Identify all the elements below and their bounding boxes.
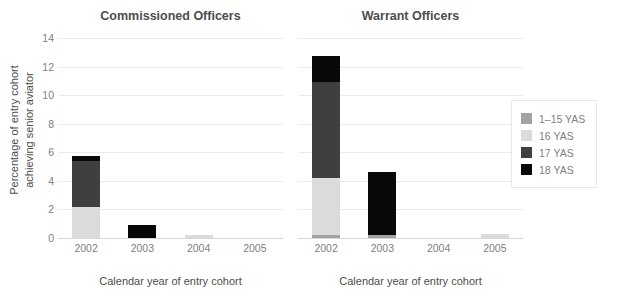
y-axis-label-line1: Percentage of entry cohort <box>8 65 20 195</box>
x-axis-label: Calendar year of entry cohort <box>298 275 523 287</box>
bar-segment <box>368 235 396 238</box>
panel-warrant-officers: Warrant Officers 2002200320042005 Calend… <box>298 0 523 307</box>
x-axis-tick-label: 2004 <box>169 242 229 254</box>
bar-segment <box>481 234 509 238</box>
y-axis-tick-label: 14 <box>28 32 54 44</box>
panel-title: Commissioned Officers <box>58 9 283 23</box>
legend-swatch-16-yas <box>521 130 532 141</box>
x-axis-tick-label: 2003 <box>352 242 412 254</box>
legend-item[interactable]: 1–15 YAS <box>521 110 585 127</box>
bar-warrant-officers-2002 <box>312 56 340 238</box>
legend-item-label: 17 YAS <box>539 147 574 159</box>
plot-area <box>58 38 283 238</box>
x-axis-tick-label: 2004 <box>409 242 469 254</box>
chart-figure: Percentage of entry cohort achieving sen… <box>0 0 627 307</box>
y-axis-tick-label: 0 <box>28 232 54 244</box>
bar-segment <box>312 235 340 238</box>
bar-segment <box>185 235 213 238</box>
x-axis-tick-label: 2005 <box>225 242 285 254</box>
bar-segment <box>72 161 100 207</box>
plot-area <box>298 38 523 238</box>
legend-swatch-17-yas <box>521 147 532 158</box>
y-axis-tick-label: 8 <box>28 118 54 130</box>
gridline <box>58 152 283 153</box>
bar-warrant-officers-2005 <box>481 234 509 238</box>
x-axis-tick-label: 2003 <box>112 242 172 254</box>
x-axis-line <box>298 238 523 239</box>
y-axis-tick-label: 4 <box>28 175 54 187</box>
bar-commissioned-officers-2004 <box>185 235 213 238</box>
y-axis-tick-label: 12 <box>28 61 54 73</box>
x-axis-line <box>58 238 283 239</box>
bar-segment <box>368 172 396 236</box>
bar-commissioned-officers-2003 <box>128 225 156 238</box>
x-axis-label: Calendar year of entry cohort <box>58 275 283 287</box>
gridline <box>58 67 283 68</box>
x-axis-ticks: 2002200320042005 <box>58 242 283 258</box>
gridline <box>58 95 283 96</box>
bar-segment <box>312 178 340 235</box>
y-axis-tick-label: 10 <box>28 89 54 101</box>
y-axis-tick-label: 2 <box>28 203 54 215</box>
legend-item-label: 18 YAS <box>539 164 574 176</box>
legend-swatch-18-yas <box>521 164 532 175</box>
legend-item-label: 16 YAS <box>539 130 574 142</box>
panel-commissioned-officers: Commissioned Officers 2002200320042005 C… <box>58 0 283 307</box>
legend-item[interactable]: 18 YAS <box>521 161 585 178</box>
gridline <box>58 124 283 125</box>
legend-item-label: 1–15 YAS <box>539 113 585 125</box>
bar-segment <box>312 82 340 178</box>
y-axis-ticks: 02468101214 <box>28 31 54 246</box>
x-axis-tick-label: 2005 <box>465 242 525 254</box>
legend-item[interactable]: 17 YAS <box>521 144 585 161</box>
y-axis-tick-label: 6 <box>28 146 54 158</box>
panel-title: Warrant Officers <box>298 9 523 23</box>
bar-segment <box>72 207 100 238</box>
legend-swatch-1-15-yas <box>521 113 532 124</box>
gridline <box>58 38 283 39</box>
bar-commissioned-officers-2002 <box>72 156 100 238</box>
gridline <box>298 38 523 39</box>
legend-item[interactable]: 16 YAS <box>521 127 585 144</box>
bar-segment <box>128 225 156 238</box>
chart-legend: 1–15 YAS16 YAS17 YAS18 YAS <box>511 100 597 188</box>
x-axis-tick-label: 2002 <box>56 242 116 254</box>
x-axis-ticks: 2002200320042005 <box>298 242 523 258</box>
bar-segment <box>312 56 340 82</box>
bar-warrant-officers-2003 <box>368 172 396 238</box>
x-axis-tick-label: 2002 <box>296 242 356 254</box>
